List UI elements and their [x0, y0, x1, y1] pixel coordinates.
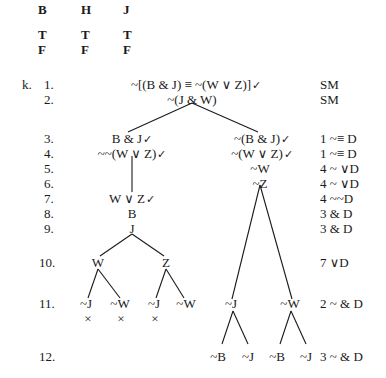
tt-cell: F — [123, 43, 131, 57]
tree-node: ~~(W ∨ Z)✓ — [98, 147, 167, 161]
closed-branch-icon: × — [151, 312, 158, 326]
justification: 1 ~≡ D — [320, 147, 357, 161]
tt-cell: T — [123, 28, 132, 42]
check-icon: ✓ — [146, 193, 155, 205]
check-icon: ✓ — [157, 148, 166, 160]
tree-node: ~W — [250, 162, 269, 176]
justification: 3 & D — [320, 207, 353, 221]
tree-node: ~J — [80, 297, 92, 311]
tree-node: Z — [162, 256, 170, 270]
tree-node-line2: ~(J & W) — [167, 93, 216, 107]
tree-node: ~(W ∨ Z)✓ — [231, 147, 293, 161]
line-number: 9. — [44, 222, 54, 236]
check-icon: ✓ — [281, 133, 290, 145]
tree-node: ~B — [210, 350, 226, 364]
justification: SM — [320, 93, 339, 107]
tt-cell: F — [81, 43, 89, 57]
tt-cell: T — [81, 28, 90, 42]
line-number: 1. — [44, 78, 54, 92]
tt-header-h: H — [81, 3, 91, 17]
check-icon: ✓ — [143, 133, 152, 145]
tree-node: W — [92, 256, 104, 270]
justification: SM — [320, 78, 339, 92]
justification: 4 ~~D — [320, 192, 353, 206]
line-number: 7. — [44, 192, 54, 206]
closed-branch-icon: × — [117, 312, 124, 326]
tree-node: ~J — [225, 297, 237, 311]
tree-node: B — [128, 207, 137, 221]
check-icon: ✓ — [252, 79, 261, 91]
closed-branch-icon: × — [84, 312, 91, 326]
justification: 7 ∨D — [320, 256, 349, 270]
tree-node: ~J — [300, 350, 312, 364]
tt-cell: T — [38, 28, 47, 42]
tree-node: ~(B & J)✓ — [234, 132, 290, 146]
tree-node: ~W — [280, 297, 299, 311]
check-icon: ✓ — [284, 148, 293, 160]
line-number: 11. — [39, 297, 55, 311]
line-number: 12. — [39, 350, 55, 364]
justification: 4 ~ ∨D — [320, 162, 359, 176]
line-number: 2. — [44, 93, 54, 107]
tt-cell: F — [38, 43, 46, 57]
problem-label: k. — [22, 78, 32, 92]
tt-header-b: B — [38, 3, 47, 17]
line-number: 6. — [44, 177, 54, 191]
line-number: 8. — [44, 207, 54, 221]
tree-node: ~W — [176, 297, 195, 311]
line-number: 5. — [44, 162, 54, 176]
justification: 3 & D — [320, 222, 353, 236]
justification: 1 ~≡ D — [320, 132, 357, 146]
tt-header-j: J — [123, 3, 130, 17]
line-number: 4. — [44, 147, 54, 161]
tree-node: ~J — [148, 297, 160, 311]
justification: 4 ~ ∨D — [320, 177, 359, 191]
tree-node: ~B — [269, 350, 285, 364]
tree-node: J — [129, 222, 134, 236]
tree-node: ~J — [242, 350, 254, 364]
tree-node: ~W — [110, 297, 129, 311]
tree-node-line1: ~[(B & J) ≡ ~(W ∨ Z)]✓ — [131, 78, 261, 92]
line-number: 3. — [44, 132, 54, 146]
line-number: 10. — [39, 256, 55, 270]
tree-node: ~Z — [253, 177, 268, 191]
justification: 3 ~ & D — [320, 350, 363, 364]
tree-node: B & J✓ — [112, 132, 152, 146]
justification: 2 ~ & D — [320, 297, 363, 311]
tree-node: W ∨ Z✓ — [109, 192, 155, 206]
